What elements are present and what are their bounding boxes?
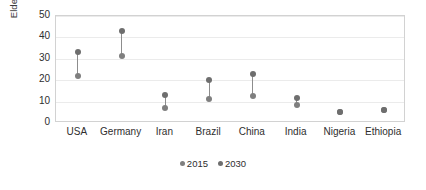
legend-item-2015[interactable]: 2015 [180,158,208,169]
x-axis-tick-germany: Germany [100,126,141,138]
data-point-2030[interactable] [75,49,81,55]
data-point-2015[interactable] [250,93,256,99]
legend-label: 2015 [187,158,208,169]
x-axis-tick-china: China [239,126,265,138]
data-point-2030[interactable] [294,95,300,101]
data-point-2030[interactable] [381,107,387,113]
y-axis-tick: 50 [24,10,50,20]
legend-dot-icon [218,161,223,166]
data-point-2015[interactable] [119,53,125,59]
y-axis-tick: 20 [24,74,50,84]
legend-label: 2030 [225,158,246,169]
grid-line [56,80,404,81]
x-axis-tick-iran: Iran [156,126,173,138]
grid-line [56,59,404,60]
data-point-2015[interactable] [162,105,168,111]
data-point-2030[interactable] [206,77,212,83]
data-point-2030[interactable] [250,71,256,77]
grid-line [56,16,404,17]
data-point-2030[interactable] [162,92,168,98]
data-point-2030[interactable] [337,109,343,115]
y-axis-tick: 30 [24,53,50,63]
chart-legend: 20152030 [0,158,426,169]
y-axis-tick: 40 [24,31,50,41]
data-point-2015[interactable] [75,73,81,79]
x-axis-tick-usa: USA [67,126,88,138]
data-point-2030[interactable] [119,28,125,34]
x-axis-tick-brazil: Brazil [196,126,221,138]
data-point-2015[interactable] [294,102,300,108]
chart-container: Elderly support ratio 01020304050 USAGer… [0,0,426,190]
x-axis-tick-ethiopia: Ethiopia [365,126,401,138]
grid-line [56,37,404,38]
legend-item-2030[interactable]: 2030 [218,158,246,169]
y-axis-tick: 0 [24,117,50,127]
y-axis-tick: 10 [24,96,50,106]
connector-line [121,31,122,56]
x-axis-tick-india: India [285,126,307,138]
grid-line [56,102,404,103]
plot-area [55,15,405,122]
x-axis-tick-nigeria: Nigeria [324,126,356,138]
legend-dot-icon [180,161,185,166]
